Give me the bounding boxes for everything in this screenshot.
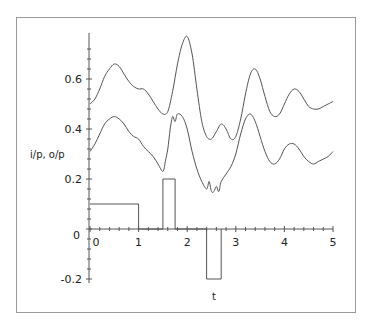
- y-axis-label: i/p, o/p: [30, 149, 65, 160]
- x-tick-label: 5: [330, 236, 337, 249]
- y-tick-label: 0.4: [65, 123, 83, 136]
- upper-output-curve: [90, 36, 333, 140]
- lower-output-curve: [90, 114, 333, 193]
- x-tick-label: 4: [281, 236, 288, 249]
- x-tick-label: 1: [135, 236, 142, 249]
- y-tick-label: 0.2: [65, 173, 83, 186]
- line-chart: 012345-0.200.20.40.6 i/p, o/p t: [0, 0, 374, 330]
- x-tick-label: 2: [184, 236, 191, 249]
- axes: [89, 33, 333, 283]
- x-tick-label: 3: [232, 236, 239, 249]
- y-tick-label: 0: [73, 229, 80, 242]
- axis-ticks: [86, 49, 333, 279]
- x-axis-label: t: [212, 291, 216, 302]
- tick-labels: 012345-0.200.20.40.6: [61, 73, 337, 286]
- data-series: [90, 36, 333, 279]
- x-tick-label: 0: [93, 236, 100, 249]
- y-tick-label: -0.2: [61, 273, 82, 286]
- y-tick-label: 0.6: [65, 73, 83, 86]
